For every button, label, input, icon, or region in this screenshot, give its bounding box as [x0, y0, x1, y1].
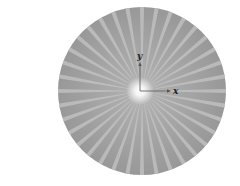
starburst-disk-diagram: x y [0, 0, 240, 186]
y-axis-label: y [136, 51, 143, 61]
x-axis-label: x [172, 86, 179, 96]
